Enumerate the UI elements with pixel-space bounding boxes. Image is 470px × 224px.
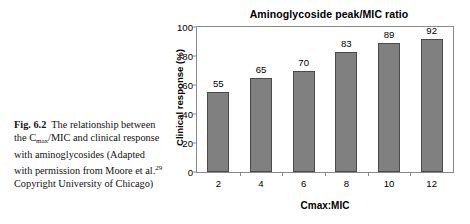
bar-value-label: 70 xyxy=(298,57,309,68)
x-axis-tick-label: 6 xyxy=(301,178,306,189)
bar[interactable] xyxy=(207,92,229,172)
x-axis-tick-label: 10 xyxy=(384,178,395,189)
bar-group: 55 xyxy=(197,27,240,172)
bar-value-label: 55 xyxy=(213,78,224,89)
y-axis-tick-label: 60 xyxy=(182,80,193,91)
figure-number: Fig. 6.2 xyxy=(14,119,46,130)
bar-group: 92 xyxy=(410,27,453,172)
x-axis-title: Cmax:MIC xyxy=(196,200,454,211)
bars-layer: 556570838992 xyxy=(197,27,453,172)
y-axis-tick-label: 100 xyxy=(177,22,193,33)
chart-title: Aminoglycoside peak/MIC ratio xyxy=(195,8,463,20)
x-axis-tick-label: 2 xyxy=(216,178,221,189)
bar-value-label: 92 xyxy=(426,25,437,36)
bar-group: 89 xyxy=(368,27,411,172)
x-axis-tick-label: 4 xyxy=(258,178,263,189)
x-axis-tick-mark xyxy=(368,172,369,176)
bar-group: 83 xyxy=(325,27,368,172)
x-axis-tick-mark xyxy=(240,172,241,176)
bar-value-label: 89 xyxy=(384,29,395,40)
bar-value-label: 83 xyxy=(341,38,352,49)
figure-caption: Fig. 6.2The relationship between the Cma… xyxy=(14,118,164,190)
bar-value-label: 65 xyxy=(256,64,267,75)
x-axis-tick-mark xyxy=(410,172,411,176)
x-axis-tick-mark xyxy=(282,172,283,176)
bar-chart: Aminoglycoside peak/MIC ratio Clinical r… xyxy=(160,4,466,220)
x-axis-tick-mark xyxy=(325,172,326,176)
bar[interactable] xyxy=(378,43,400,172)
y-axis-tick-label: 20 xyxy=(182,138,193,149)
y-axis-tick-label: 40 xyxy=(182,109,193,120)
caption-subscript: max xyxy=(36,137,48,145)
bar[interactable] xyxy=(293,71,315,173)
y-axis-tick-label: 80 xyxy=(182,51,193,62)
x-axis-tick-label: 12 xyxy=(426,178,437,189)
bar-group: 65 xyxy=(240,27,283,172)
bar-group: 70 xyxy=(282,27,325,172)
bar[interactable] xyxy=(421,39,443,172)
x-axis-tick-label: 8 xyxy=(344,178,349,189)
bar[interactable] xyxy=(335,52,357,172)
bar[interactable] xyxy=(250,78,272,172)
caption-text-3: Copyright University of Chicago) xyxy=(14,178,153,189)
plot-area: 020406080100 556570838992 24681012 xyxy=(196,26,454,173)
